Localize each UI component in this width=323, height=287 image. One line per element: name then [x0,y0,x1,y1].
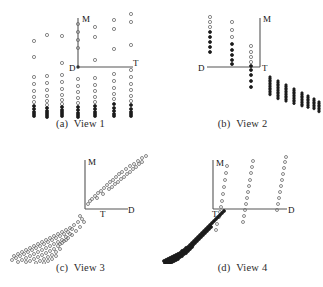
data-point [285,156,288,159]
data-point [60,93,63,96]
data-point [45,88,48,91]
data-point [230,35,233,38]
axis-label-d-view-2: D [198,63,205,73]
axis-label-d-view-3: D [128,205,135,215]
data-point [216,223,219,226]
data-point [77,109,80,112]
data-point [209,51,212,54]
axis-label-m-view-1: M [82,14,90,24]
caption-index-view-1: (a) [56,118,68,129]
caption-view-2: (b) View 2 [162,118,323,129]
data-point [141,161,144,164]
data-point [250,172,253,175]
data-point [93,58,96,61]
data-point [97,192,100,195]
data-point [250,69,253,72]
data-point [250,86,253,89]
data-point [76,90,79,93]
panel-view-4: M T D (d) View 4 [162,144,323,287]
data-point [32,89,35,92]
figure-four-scatter-views: M D T (a) View 1 M D T [0,0,323,287]
data-point [53,248,56,251]
data-point [129,43,132,46]
scatter-plot-view-1: M D T [0,0,161,120]
data-point [60,80,63,83]
data-point [112,86,115,89]
data-point [63,233,66,236]
data-point [112,47,115,50]
data-point [282,173,285,176]
axis-lines-view-1 [78,18,133,67]
data-point [283,167,286,170]
data-point [94,105,97,108]
caption-view-4: (d) View 4 [162,262,323,273]
data-point [125,168,128,171]
data-point [43,258,46,261]
data-point [269,93,271,95]
data-point [250,80,253,83]
data-point [102,193,105,196]
data-point [249,50,252,53]
data-point [129,82,132,85]
data-point [55,237,58,240]
caption-view-1: (a) View 1 [0,118,161,129]
data-point [113,110,116,113]
caption-view-3: (c) View 3 [0,262,161,273]
data-point [224,179,227,182]
data-point [43,243,46,246]
data-point [45,33,48,36]
data-point [209,41,212,44]
data-point [46,107,49,110]
data-point [19,255,22,258]
data-point [60,87,63,90]
data-point [47,241,50,244]
data-point [59,248,62,251]
data-point [251,166,254,169]
data-point [87,203,90,206]
data-point [129,12,132,15]
data-point [111,186,114,189]
data-point [126,173,129,176]
data-point [60,73,63,76]
data-point [250,65,253,68]
data-point [112,97,115,100]
axis-label-m-view-2: M [263,14,271,24]
data-point [129,75,132,78]
scatter-plot-view-3: M T D [0,144,161,264]
data-point [79,215,82,218]
data-point [45,99,48,102]
data-point [55,255,58,258]
caption-text-view-4: View 4 [236,262,267,273]
data-point [115,176,118,179]
data-point [249,55,252,58]
data-point [277,203,280,206]
data-point [32,82,35,85]
data-point [129,68,132,71]
data-point [285,100,287,102]
data-point [112,27,115,30]
data-point [29,255,32,258]
data-point [106,184,109,187]
data-point [37,256,40,259]
caption-index-view-3: (c) [56,262,68,273]
data-point [245,203,248,206]
data-point [225,172,228,175]
data-point [55,251,58,254]
data-point [94,108,97,111]
data-point [77,106,80,109]
axis-label-t-view-2: T [262,63,268,73]
data-point [45,94,48,97]
data-point [307,106,309,108]
data-point [93,83,96,86]
data-point [141,157,144,160]
data-point [93,95,96,98]
data-point [103,187,106,190]
data-point [230,20,233,23]
data-point [243,215,246,218]
data-point [250,74,253,77]
data-point [51,239,54,242]
data-point [60,34,63,37]
data-point [41,254,44,257]
data-point [73,224,76,227]
data-point [230,28,233,31]
